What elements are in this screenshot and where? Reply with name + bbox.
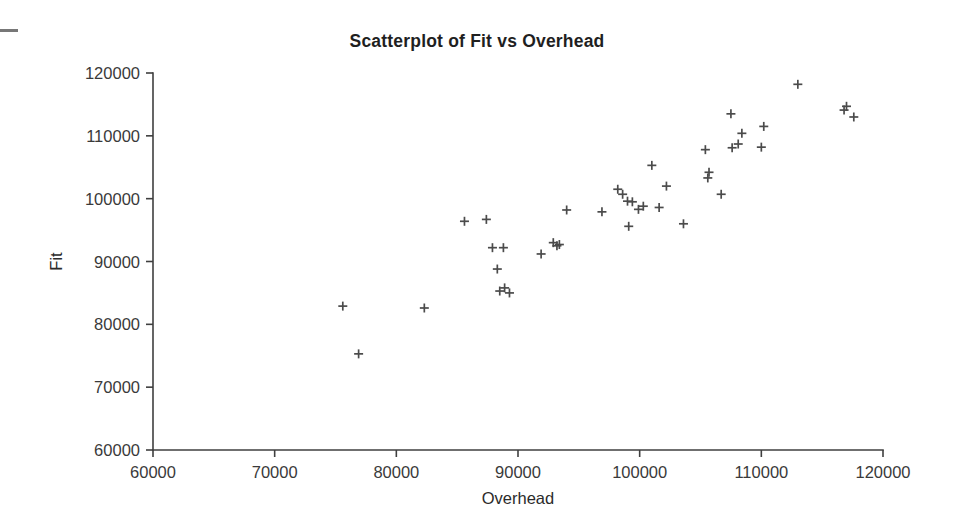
y-tick-label: 60000 [94,441,140,459]
data-point-marker [493,265,502,274]
y-tick-label: 110000 [86,127,140,145]
y-axis-title: Fit [47,252,65,271]
x-tick-label: 110000 [734,463,788,481]
x-tick-label: 70000 [252,463,298,481]
chart-figure: Scatterplot of Fit vs Overhead 600007000… [0,0,954,529]
x-tick-label: 100000 [612,463,667,481]
y-axis-tick-labels: 60000700008000090000100000110000120000 [85,64,140,459]
data-point-marker [613,185,622,194]
data-point-marker [662,182,671,191]
data-point-marker [460,217,469,226]
data-point-marker [624,222,633,231]
data-point-marker [499,243,508,252]
data-point-marker [759,122,768,131]
data-point-marker [597,207,606,216]
y-tick-label: 70000 [94,378,140,396]
data-point-marker [717,190,726,199]
x-axis-tick-labels: 60000700008000090000100000110000120000 [130,463,910,481]
y-tick-label: 80000 [94,315,140,333]
data-point-marker [647,161,656,170]
data-point-marker [354,349,363,358]
y-tick-label: 120000 [85,64,140,82]
data-point-marker [679,219,688,228]
y-tick-label: 90000 [94,253,140,271]
data-point-marker [338,302,347,311]
x-tick-label: 90000 [495,463,541,481]
x-tick-label: 60000 [130,463,176,481]
scatterplot-canvas: 60000700008000090000100000110000120000 6… [0,0,954,529]
data-point-marker [849,112,858,121]
x-tick-label: 120000 [855,463,910,481]
data-point-marker [488,243,497,252]
data-point-marker [562,205,571,214]
x-tick-label: 80000 [373,463,419,481]
data-point-marker [505,288,514,297]
x-axis-title: Overhead [482,489,554,507]
data-point-marker [757,143,766,152]
data-point-marker [737,129,746,138]
x-axis-ticks [153,450,883,457]
data-point-marker [628,197,637,206]
data-point-marker [701,145,710,154]
y-axis-ticks [146,73,153,450]
y-tick-label: 100000 [85,190,140,208]
data-point-marker [726,109,735,118]
data-point-marker [482,215,491,224]
data-point-marker [537,249,546,258]
data-point-marker [618,190,627,199]
data-point-marker [705,168,714,177]
scatter-data-points [338,80,858,359]
data-point-marker [793,80,802,89]
data-point-marker [655,203,664,212]
data-point-marker [703,173,712,182]
data-point-marker [420,303,429,312]
